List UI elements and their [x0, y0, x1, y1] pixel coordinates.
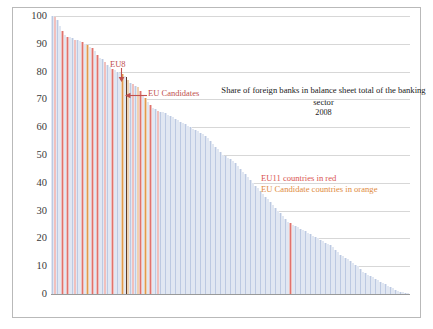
- y-axis-tick-100: 100: [21, 11, 47, 21]
- y-axis-tick-0: 0: [21, 289, 47, 299]
- chart-title: Share of foreign banks in balance sheet …: [221, 85, 426, 108]
- legend-item-eu11: EU11 countries in red: [261, 173, 377, 184]
- y-axis-tick-30: 30: [21, 206, 47, 216]
- chart-subtitle-year: 2008: [221, 108, 426, 117]
- chart-plot-area: 0102030405060708090100 EU8 EU Candidates…: [13, 8, 420, 317]
- annotation-eu-candidates-label: EU Candidates: [148, 88, 199, 98]
- plot-canvas: [51, 16, 410, 294]
- y-axis-tick-90: 90: [21, 39, 47, 49]
- y-axis-tick-10: 10: [21, 261, 47, 271]
- y-axis-tick-60: 60: [21, 122, 47, 132]
- annotation-eu8-arrow-icon: [117, 68, 126, 82]
- y-axis-tick-40: 40: [21, 178, 47, 188]
- legend-item-candidates: EU Candidate countries in orange: [261, 184, 377, 195]
- chart-frame: 0102030405060708090100 EU8 EU Candidates…: [12, 7, 421, 318]
- y-axis: 0102030405060708090100: [19, 16, 47, 296]
- gridline-0: [51, 294, 410, 295]
- y-axis-tick-20: 20: [21, 233, 47, 243]
- y-axis-tick-70: 70: [21, 94, 47, 104]
- annotation-eu-candidates-arrow-icon: [125, 91, 147, 100]
- y-axis-tick-80: 80: [21, 67, 47, 77]
- chart-legend: EU11 countries in red EU Candidate count…: [261, 173, 377, 194]
- bar-series: [51, 16, 410, 294]
- y-axis-tick-50: 50: [21, 150, 47, 160]
- bar: [407, 293, 410, 294]
